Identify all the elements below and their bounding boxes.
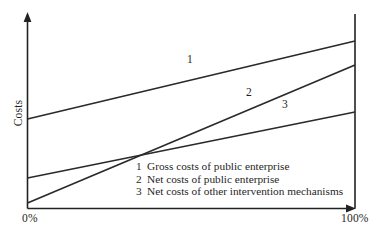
legend-item: 1 Gross costs of public enterprise xyxy=(136,160,343,173)
legend-item-key: 1 xyxy=(136,160,147,173)
chart-legend: 1 Gross costs of public enterprise 2 Net… xyxy=(136,160,343,198)
legend-item: 3 Net costs of other intervention mechan… xyxy=(136,185,343,198)
legend-item-label: Net costs of other intervention mechanis… xyxy=(147,185,343,198)
chart-plot-area xyxy=(0,0,383,241)
series-marker-3: 3 xyxy=(282,98,288,110)
legend-item: 2 Net costs of public enterprise xyxy=(136,173,343,186)
series-marker-1: 1 xyxy=(187,53,193,65)
x-axis-tick-label-left: 0% xyxy=(22,212,38,224)
y-axis-arrow-icon xyxy=(24,12,32,22)
y-axis-title: Costs xyxy=(12,83,24,143)
legend-item-label: Net costs of public enterprise xyxy=(147,173,279,186)
x-axis-tick-label-right: 100% xyxy=(341,212,369,224)
series-marker-2: 2 xyxy=(246,86,252,98)
cost-comparison-chart: Costs 0% 100% 1 2 3 1 Gross costs of pub… xyxy=(0,0,383,241)
legend-item-label: Gross costs of public enterprise xyxy=(147,160,289,173)
legend-item-key: 2 xyxy=(136,173,147,186)
legend-item-key: 3 xyxy=(136,185,147,198)
